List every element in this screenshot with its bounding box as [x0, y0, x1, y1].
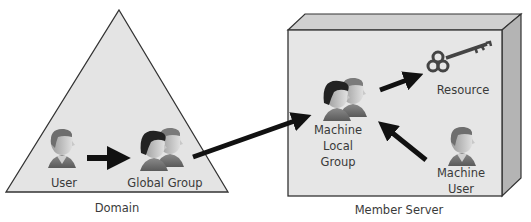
user-label: User: [51, 175, 77, 191]
machine-user-label: Machine User: [437, 165, 485, 197]
global-group-label: Global Group: [127, 175, 202, 191]
machine-local-group-label: Machine Local Group: [314, 122, 362, 170]
member-server-label: Member Server: [355, 202, 444, 218]
arrow-global-group-to-machine-local-group: [193, 118, 303, 157]
resource-label: Resource: [437, 82, 490, 98]
machine-local-group-icon: [323, 78, 367, 121]
domain-label: Domain: [95, 200, 140, 216]
global-group-icon: [140, 128, 184, 171]
domain-triangle: [6, 10, 228, 192]
